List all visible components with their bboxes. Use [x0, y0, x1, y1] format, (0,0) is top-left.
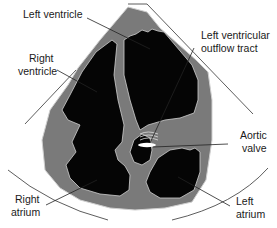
- label-left-ventricle: Left ventricle: [23, 8, 83, 20]
- label-right-atrium-line1: Right: [15, 193, 40, 205]
- label-aortic-valve-line1: Aortic: [240, 129, 267, 141]
- label-lvot-line1: Left ventricular: [201, 29, 270, 41]
- label-lvot-line2: outflow tract: [201, 42, 258, 54]
- label-left-atrium-line1: Left: [236, 195, 254, 207]
- label-aortic-valve-line2: valve: [242, 142, 267, 154]
- label-right-atrium-line2: atrium: [11, 206, 40, 218]
- left-ventricle-chamber: [124, 29, 198, 130]
- label-right-ventricle-line1: Right: [29, 52, 54, 64]
- label-right-ventricle-line2: ventricle: [18, 65, 57, 77]
- label-left-atrium-line2: atrium: [236, 208, 265, 220]
- heart-diagram: Left ventricle Right ventricle Left vent…: [0, 0, 277, 228]
